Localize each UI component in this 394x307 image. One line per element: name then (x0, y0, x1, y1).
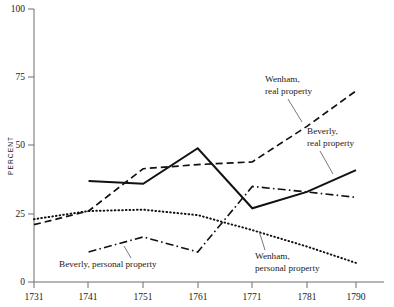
series-beverly-real-property (89, 148, 356, 208)
x-tick-label-1790: 1790 (347, 292, 366, 302)
annotation-beverly-real-line2: real property (307, 138, 355, 148)
line-chart-figure: 100 75 50 25 0 PERCENT 1731 1741 1751 17… (0, 0, 394, 307)
chart-canvas: 100 75 50 25 0 PERCENT 1731 1741 1751 17… (0, 0, 394, 307)
leader-beverly-personal (124, 246, 131, 258)
y-tick-label-100: 100 (11, 4, 26, 14)
leader-beverly-real (320, 151, 333, 174)
y-tick-label-50: 50 (16, 140, 26, 150)
annotation-wenham-personal-line1: Wenham, (255, 251, 290, 261)
series-wenham-real-property (34, 91, 356, 225)
series-group (34, 91, 356, 263)
annotation-wenham-personal-property: Wenham, personal property (255, 231, 320, 273)
y-tick-label-0: 0 (20, 277, 25, 287)
y-tick-label-75: 75 (16, 72, 26, 82)
y-axis-title: PERCENT (7, 136, 14, 175)
annotation-beverly-real-line1: Beverly, (307, 126, 338, 136)
series-beverly-personal-property (89, 186, 356, 252)
y-axis: 100 75 50 25 0 PERCENT (7, 4, 34, 287)
annotation-beverly-personal-property: Beverly, personal property (59, 246, 157, 269)
annotation-wenham-personal-line2: personal property (255, 263, 320, 273)
x-tick-label-1771: 1771 (243, 292, 262, 302)
x-axis: 1731 1741 1751 1761 1771 1781 1790 (25, 282, 385, 302)
series-wenham-personal-property (34, 210, 356, 263)
leader-wenham-real (288, 99, 302, 122)
annotation-wenham-real-line2: real property (265, 86, 313, 96)
x-tick-label-1731: 1731 (25, 292, 44, 302)
x-tick-label-1751: 1751 (134, 292, 153, 302)
annotation-beverly-real-property: Beverly, real property (307, 126, 355, 174)
annotation-wenham-real-property: Wenham, real property (265, 74, 313, 122)
annotation-beverly-personal-line1: Beverly, personal property (59, 259, 157, 269)
y-tick-label-25: 25 (16, 209, 26, 219)
annotation-wenham-real-line1: Wenham, (265, 74, 300, 84)
x-tick-label-1761: 1761 (189, 292, 208, 302)
x-tick-label-1741: 1741 (79, 292, 98, 302)
x-tick-label-1781: 1781 (298, 292, 317, 302)
